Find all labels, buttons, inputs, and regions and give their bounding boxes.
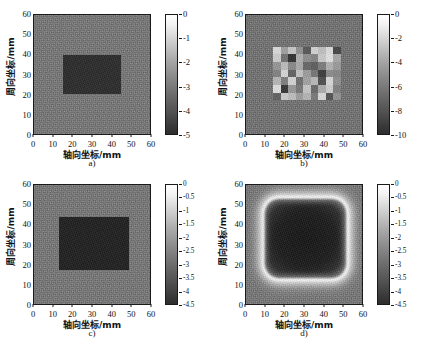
x-tick-mark	[33, 304, 34, 307]
defect-cell	[296, 47, 304, 55]
y-tick-label: 10	[235, 280, 244, 290]
x-tick-mark	[284, 134, 285, 137]
defect-cell	[318, 93, 326, 101]
defect-cell	[303, 62, 311, 70]
x-tick-mark	[52, 304, 53, 307]
defect-cell	[326, 85, 334, 93]
y-axis-label-d: 周向坐标/mm	[216, 205, 229, 269]
panel-caption-b: b)	[245, 158, 363, 168]
x-tick-mark	[264, 134, 265, 137]
defect-cell	[296, 85, 304, 93]
colorbar-tick-label: -5	[183, 130, 190, 140]
defect-cell	[288, 62, 296, 70]
y-tick-label: 40	[235, 49, 244, 59]
defect-cell	[303, 77, 311, 85]
colorbar-tick-label: -2.5	[395, 247, 406, 255]
colorbar-tick-label: -3	[183, 82, 190, 92]
y-tick-label: 50	[235, 29, 244, 39]
x-tick-mark	[323, 304, 324, 307]
x-tick-mark	[323, 134, 324, 137]
y-tick-label: 30	[23, 70, 32, 80]
colorbar-tick-label: -0.5	[183, 193, 194, 201]
colorbar-tick-label: -3	[395, 261, 401, 269]
y-tick-label: 60	[23, 179, 32, 189]
colorbar-d	[377, 184, 390, 305]
y-tick-label: 20	[23, 260, 32, 270]
defect-cell	[326, 62, 334, 70]
colorbar-tick-label: -3.5	[183, 274, 194, 282]
defect-cell	[333, 85, 341, 93]
colorbar-tick-label: -1	[183, 207, 189, 215]
x-tick-mark	[72, 304, 73, 307]
x-tick-mark	[111, 304, 112, 307]
y-tick-label: 30	[235, 240, 244, 250]
defect-cell	[273, 70, 281, 78]
defect-cell	[273, 77, 281, 85]
defect-cell	[318, 70, 326, 78]
colorbar-tick-label: 0	[395, 9, 399, 19]
figure-container: 0102030405060 0102030405060 轴向坐标/mm 周向坐标…	[0, 0, 425, 341]
y-tick-label: 40	[235, 219, 244, 229]
defect-cell	[318, 77, 326, 85]
defect-cell	[281, 54, 289, 62]
panel-caption-c: c)	[33, 328, 151, 338]
defect-cell	[303, 70, 311, 78]
defect-cell	[281, 47, 289, 55]
defect-cell	[288, 54, 296, 62]
colorbar-ticks-d: 0-0.5-1-1.5-2-2.5-3-3.5-4-4.5	[391, 184, 421, 305]
y-tick-label: 30	[235, 70, 244, 80]
defect-cell	[281, 77, 289, 85]
x-tick-mark	[151, 304, 152, 307]
heatmap-c	[33, 184, 151, 305]
defect-region-a	[63, 55, 121, 95]
defect-cell	[333, 54, 341, 62]
defect-cell	[296, 54, 304, 62]
colorbar-tick-label: -0.5	[395, 193, 406, 201]
x-tick-mark	[52, 134, 53, 137]
panel-caption-d: d)	[245, 328, 363, 338]
colorbar-tick-label: -2	[183, 234, 189, 242]
y-axis-label-a: 周向坐标/mm	[4, 35, 17, 99]
defect-cell	[311, 93, 319, 101]
x-tick-mark	[245, 304, 246, 307]
x-tick-mark	[245, 134, 246, 137]
defect-cell	[288, 93, 296, 101]
heatmap-a	[33, 14, 151, 135]
defect-cell	[288, 47, 296, 55]
panel-d: 0102030405060 0102030405060 轴向坐标/mm 周向坐标…	[212, 170, 424, 340]
x-tick-mark	[264, 304, 265, 307]
x-tick-mark	[343, 304, 344, 307]
defect-cell	[303, 47, 311, 55]
defect-cell	[326, 70, 334, 78]
colorbar-tick-label: -4	[395, 288, 401, 296]
x-tick-mark	[304, 134, 305, 137]
y-axis-label-b: 周向坐标/mm	[216, 35, 229, 99]
colorbar-tick-label: -1.5	[395, 220, 406, 228]
defect-cell	[311, 85, 319, 93]
y-tick-label: 40	[23, 49, 32, 59]
y-tick-label: 30	[23, 240, 32, 250]
defect-grid-b	[273, 47, 341, 101]
defect-cell	[333, 47, 341, 55]
y-tick-label: 60	[235, 179, 244, 189]
panel-a: 0102030405060 0102030405060 轴向坐标/mm 周向坐标…	[0, 0, 212, 170]
colorbar-tick-label: -4	[183, 288, 189, 296]
defect-cell	[326, 93, 334, 101]
colorbar-tick-label: 0	[183, 9, 187, 19]
x-tick-mark	[92, 134, 93, 137]
x-tick-mark	[343, 134, 344, 137]
defect-cell	[318, 47, 326, 55]
defect-cell	[333, 62, 341, 70]
defect-cell	[281, 62, 289, 70]
y-tick-label: 20	[235, 260, 244, 270]
y-axis-label-c: 周向坐标/mm	[4, 205, 17, 269]
colorbar-tick-label: -2	[395, 234, 401, 242]
colorbar-c	[165, 184, 178, 305]
colorbar-tick-label: -4.5	[395, 301, 406, 309]
colorbar-tick-label: -4	[395, 57, 402, 67]
colorbar-tick-label: -1	[183, 33, 190, 43]
defect-cell	[303, 54, 311, 62]
colorbar-tick-label: -3	[183, 261, 189, 269]
colorbar-b	[377, 14, 390, 135]
colorbar-ticks-b: 0-2-4-6-8-10	[391, 14, 421, 135]
